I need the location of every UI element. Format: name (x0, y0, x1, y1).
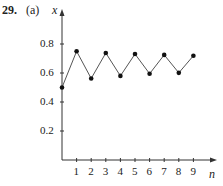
y-tick-label: 0.4 (40, 95, 54, 107)
x-tick-label: 1 (74, 165, 80, 177)
x-tick-label: 8 (176, 165, 182, 177)
x-tick-label: 2 (88, 165, 94, 177)
y-tick-label: 0.2 (40, 124, 54, 136)
x-tick-label: 7 (161, 165, 167, 177)
data-point (133, 52, 138, 57)
y-axis-arrow-icon (60, 9, 65, 16)
data-point (191, 53, 196, 58)
data-point (147, 71, 152, 76)
y-tick-label: 0.6 (40, 66, 54, 78)
x-tick-label: 6 (147, 165, 153, 177)
x-tick-label: 3 (103, 165, 109, 177)
x-tick-label: 4 (117, 165, 123, 177)
data-point (60, 85, 65, 90)
data-point (118, 74, 123, 79)
x-tick-label: 5 (132, 165, 138, 177)
x-axis-arrow-icon (210, 158, 217, 163)
data-point (74, 49, 79, 54)
data-line (62, 51, 193, 87)
data-point (177, 71, 182, 76)
data-point (162, 53, 167, 58)
data-point (104, 51, 109, 56)
data-point (89, 76, 94, 81)
line-chart (0, 0, 223, 186)
x-tick-label: 9 (190, 165, 196, 177)
y-tick-label: 0.8 (40, 37, 54, 49)
